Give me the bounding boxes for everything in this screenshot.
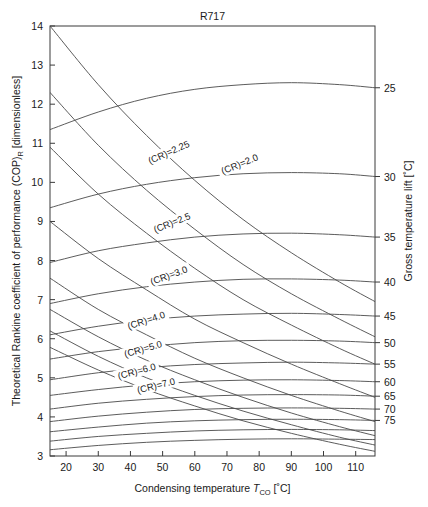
curve-label-text: (CR)=2.0 xyxy=(219,152,259,177)
y2-axis-tick-label: 65 xyxy=(384,390,396,402)
gross-temperature-lift-curve xyxy=(50,233,375,262)
y-axis-tick-label: 5 xyxy=(37,372,43,384)
compression-ratio-curve xyxy=(50,26,375,302)
curve-label-text: (CR)=6.0 xyxy=(116,361,156,382)
gross-temperature-lift-curve xyxy=(50,83,375,130)
y2-axis-tick-label: 40 xyxy=(384,276,396,288)
curve-label: (CR)=6.0 xyxy=(113,359,160,382)
y2-axis-tick-label: 75 xyxy=(384,414,396,426)
curve-label-text: (CR)=2.5 xyxy=(152,210,192,235)
curve-label-text: (CR)=5.0 xyxy=(123,338,163,359)
y-axis-tick-label: 12 xyxy=(31,98,43,110)
curve-label: (CR)=5.0 xyxy=(120,337,167,361)
x-axis-title: Condensing temperature TCO [˚C] xyxy=(134,482,290,497)
y-axis-tick-label: 14 xyxy=(31,20,43,32)
rankine-cop-chart: 345678910111213142030405060708090100110(… xyxy=(0,0,428,507)
curve-label: (CR)=2.5 xyxy=(149,208,196,236)
y-axis-tick-label: 10 xyxy=(31,176,43,188)
y2-axis-tick-label: 60 xyxy=(384,376,396,388)
y-axis-tick-label: 9 xyxy=(37,215,43,227)
compression-ratio-curve xyxy=(50,147,375,364)
compression-ratio-curve xyxy=(50,331,375,445)
y2-axis-tick-label: 50 xyxy=(384,337,396,349)
curve-layer xyxy=(50,26,375,451)
y-axis-tick-label: 6 xyxy=(37,333,43,345)
x-axis-tick-label: 80 xyxy=(253,461,265,473)
y2-axis-tick-label: 30 xyxy=(384,171,396,183)
plot-frame xyxy=(50,26,375,456)
y-axis-tick-label: 8 xyxy=(37,255,43,267)
chart-figure: 345678910111213142030405060708090100110(… xyxy=(0,0,428,507)
x-axis-tick-label: 60 xyxy=(189,461,201,473)
curve-label-text: (CR)=4.0 xyxy=(126,309,166,331)
curve-label: (CR)=4.0 xyxy=(123,307,170,332)
y-axis-tick-label: 7 xyxy=(37,294,43,306)
x-axis-tick-label: 40 xyxy=(125,461,137,473)
y2-axis-tick-label: 35 xyxy=(384,231,396,243)
chart-title: R717 xyxy=(200,10,225,22)
x-axis-tick-label: 50 xyxy=(157,461,169,473)
gross-temperature-lift-curve xyxy=(50,173,375,208)
x-axis-tick-label: 110 xyxy=(347,461,364,473)
y-axis-tick-label: 11 xyxy=(32,137,43,149)
x-axis-tick-label: 90 xyxy=(285,461,297,473)
compression-ratio-curve xyxy=(50,92,375,336)
y-axis-title: Theoretical Rankine coefficient of perfo… xyxy=(10,76,25,406)
y-axis-tick-label: 3 xyxy=(37,450,43,462)
x-axis-tick-label: 70 xyxy=(221,461,233,473)
y2-axis-tick-label: 45 xyxy=(384,310,396,322)
curve-label: (CR)=2.25 xyxy=(143,136,194,168)
y-axis-tick-label: 13 xyxy=(31,59,43,71)
gross-temperature-lift-curve xyxy=(50,439,375,450)
gross-temperature-lift-curve xyxy=(50,279,375,304)
curve-label-text: (CR)=7.0 xyxy=(136,375,176,395)
y2-axis-tick-label: 25 xyxy=(384,82,396,94)
gross-temperature-lift-curve xyxy=(50,380,375,396)
y-axis-tick-label: 4 xyxy=(37,411,43,423)
x-axis-tick-label: 100 xyxy=(315,461,333,473)
y2-axis-title: Gross temperature lift [˚C] xyxy=(402,161,414,282)
x-axis-tick-label: 30 xyxy=(92,461,104,473)
gross-temperature-lift-curve xyxy=(50,313,375,335)
gross-temperature-lift-curve xyxy=(50,362,375,380)
compression-ratio-curve xyxy=(50,278,375,421)
curve-label-text: (CR)=3.0 xyxy=(149,263,189,287)
x-axis-tick-label: 20 xyxy=(60,461,72,473)
y2-axis-tick-label: 70 xyxy=(384,403,396,415)
y2-axis-tick-label: 55 xyxy=(384,358,396,370)
